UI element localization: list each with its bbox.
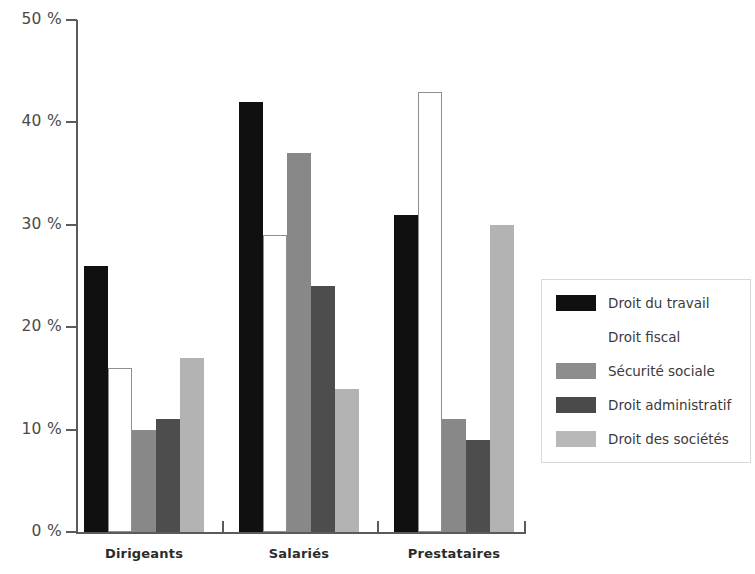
legend-item-label: Droit administratif [608,397,731,413]
y-axis-tick-label: 20 % [0,317,62,335]
bar [156,419,180,532]
bar [84,266,108,532]
bars-layer [78,20,526,532]
y-axis-tick [66,531,77,533]
legend-item-label: Sécurité sociale [608,363,715,379]
bar [132,430,156,532]
y-axis-tick-label: 40 % [0,112,62,130]
bar [394,215,418,532]
legend-swatch-icon [556,431,596,447]
legend-item[interactable]: Droit fiscal [556,328,680,346]
y-axis-tick [66,19,77,21]
bar [466,440,490,532]
legend: Droit du travailDroit fiscalSécurité soc… [541,279,751,463]
bar [418,92,442,532]
bar [108,368,132,532]
y-axis-tick [66,429,77,431]
bar [335,389,359,532]
x-axis-group-label: Prestataires [364,546,544,561]
bar [311,286,335,532]
legend-swatch-icon [556,329,596,345]
y-axis-tick [66,121,77,123]
legend-item[interactable]: Droit des sociétés [556,430,729,448]
bar [239,102,263,532]
legend-swatch-icon [556,363,596,379]
y-axis-tick-label: 30 % [0,215,62,233]
legend-item-label: Droit des sociétés [608,431,729,447]
bar [287,153,311,532]
x-axis-group-label: Dirigeants [54,546,234,561]
bar-chart: 50 %40 %30 %20 %10 %0 % DirigeantsSalari… [0,0,755,574]
y-axis-tick [66,224,77,226]
legend-item[interactable]: Droit du travail [556,294,710,312]
legend-swatch-icon [556,295,596,311]
legend-item[interactable]: Sécurité sociale [556,362,715,380]
legend-item[interactable]: Droit administratif [556,396,731,414]
bar [180,358,204,532]
bar [442,419,466,532]
y-axis-tick-label: 10 % [0,420,62,438]
legend-swatch-icon [556,397,596,413]
legend-item-label: Droit du travail [608,295,710,311]
x-axis-line [76,532,526,534]
bar [490,225,514,532]
x-axis-group-label: Salariés [209,546,389,561]
legend-item-label: Droit fiscal [608,329,680,345]
y-axis-tick-label: 0 % [0,522,62,540]
y-axis-tick [66,326,77,328]
y-axis-tick-label: 50 % [0,10,62,28]
bar [263,235,287,532]
